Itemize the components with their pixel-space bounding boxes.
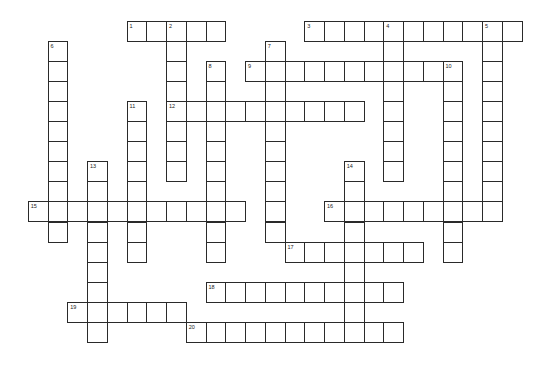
crossword-cell[interactable] xyxy=(324,101,345,122)
crossword-cell[interactable] xyxy=(265,161,286,182)
crossword-cell[interactable]: 11 xyxy=(127,101,148,122)
crossword-cell[interactable] xyxy=(344,322,365,343)
crossword-cell[interactable] xyxy=(443,242,464,263)
crossword-cell[interactable] xyxy=(146,21,167,42)
crossword-cell[interactable]: 2 xyxy=(166,21,187,42)
crossword-cell[interactable] xyxy=(67,201,88,222)
crossword-cell[interactable] xyxy=(482,61,503,82)
crossword-cell[interactable] xyxy=(127,121,148,142)
crossword-cell[interactable] xyxy=(48,101,69,122)
crossword-cell[interactable] xyxy=(186,101,207,122)
crossword-cell[interactable] xyxy=(423,61,444,82)
crossword-cell[interactable] xyxy=(48,61,69,82)
crossword-cell[interactable] xyxy=(383,121,404,142)
crossword-cell[interactable] xyxy=(87,181,108,202)
crossword-cell[interactable] xyxy=(482,161,503,182)
crossword-cell[interactable] xyxy=(206,121,227,142)
crossword-cell[interactable] xyxy=(364,322,385,343)
crossword-cell[interactable] xyxy=(127,222,148,243)
crossword-cell[interactable] xyxy=(166,41,187,62)
crossword-cell[interactable] xyxy=(186,201,207,222)
crossword-cell[interactable] xyxy=(482,81,503,102)
crossword-cell[interactable] xyxy=(482,141,503,162)
crossword-cell[interactable] xyxy=(48,121,69,142)
crossword-cell[interactable] xyxy=(344,101,365,122)
crossword-cell[interactable] xyxy=(364,61,385,82)
crossword-cell[interactable] xyxy=(285,322,306,343)
crossword-cell[interactable] xyxy=(403,201,424,222)
crossword-cell[interactable] xyxy=(265,101,286,122)
crossword-cell[interactable] xyxy=(344,201,365,222)
crossword-cell[interactable] xyxy=(146,201,167,222)
crossword-cell[interactable] xyxy=(87,201,108,222)
crossword-cell[interactable] xyxy=(265,181,286,202)
crossword-cell[interactable] xyxy=(87,282,108,303)
crossword-cell[interactable]: 12 xyxy=(166,101,187,122)
crossword-cell[interactable] xyxy=(166,201,187,222)
crossword-cell[interactable] xyxy=(344,242,365,263)
crossword-cell[interactable] xyxy=(206,181,227,202)
crossword-cell[interactable] xyxy=(186,21,207,42)
crossword-cell[interactable] xyxy=(383,141,404,162)
crossword-cell[interactable] xyxy=(304,61,325,82)
crossword-cell[interactable] xyxy=(245,282,266,303)
crossword-cell[interactable]: 7 xyxy=(265,41,286,62)
crossword-cell[interactable] xyxy=(48,201,69,222)
crossword-cell[interactable] xyxy=(265,282,286,303)
crossword-cell[interactable]: 20 xyxy=(186,322,207,343)
crossword-cell[interactable] xyxy=(423,21,444,42)
crossword-cell[interactable] xyxy=(383,322,404,343)
crossword-cell[interactable] xyxy=(324,322,345,343)
crossword-cell[interactable] xyxy=(225,101,246,122)
crossword-cell[interactable] xyxy=(304,282,325,303)
crossword-cell[interactable] xyxy=(443,141,464,162)
crossword-cell[interactable] xyxy=(502,21,523,42)
crossword-cell[interactable] xyxy=(443,121,464,142)
crossword-cell[interactable] xyxy=(383,61,404,82)
crossword-cell[interactable] xyxy=(48,181,69,202)
crossword-cell[interactable] xyxy=(482,41,503,62)
crossword-cell[interactable] xyxy=(482,201,503,222)
crossword-cell[interactable] xyxy=(48,141,69,162)
crossword-cell[interactable] xyxy=(265,121,286,142)
crossword-cell[interactable]: 15 xyxy=(28,201,49,222)
crossword-cell[interactable] xyxy=(443,161,464,182)
crossword-cell[interactable]: 4 xyxy=(383,21,404,42)
crossword-cell[interactable] xyxy=(364,282,385,303)
crossword-cell[interactable] xyxy=(107,302,128,323)
crossword-cell[interactable] xyxy=(383,101,404,122)
crossword-cell[interactable]: 5 xyxy=(482,21,503,42)
crossword-cell[interactable] xyxy=(127,201,148,222)
crossword-cell[interactable] xyxy=(166,81,187,102)
crossword-cell[interactable] xyxy=(87,262,108,283)
crossword-cell[interactable]: 16 xyxy=(324,201,345,222)
crossword-cell[interactable] xyxy=(127,302,148,323)
crossword-cell[interactable] xyxy=(324,21,345,42)
crossword-cell[interactable]: 14 xyxy=(344,161,365,182)
crossword-cell[interactable] xyxy=(166,61,187,82)
crossword-cell[interactable] xyxy=(443,201,464,222)
crossword-cell[interactable] xyxy=(206,322,227,343)
crossword-cell[interactable]: 8 xyxy=(206,61,227,82)
crossword-cell[interactable] xyxy=(225,201,246,222)
crossword-cell[interactable] xyxy=(166,121,187,142)
crossword-cell[interactable] xyxy=(206,81,227,102)
crossword-cell[interactable] xyxy=(265,201,286,222)
crossword-cell[interactable] xyxy=(344,21,365,42)
crossword-cell[interactable] xyxy=(403,21,424,42)
crossword-cell[interactable] xyxy=(344,302,365,323)
crossword-cell[interactable] xyxy=(265,222,286,243)
crossword-cell[interactable] xyxy=(383,282,404,303)
crossword-cell[interactable] xyxy=(107,201,128,222)
crossword-cell[interactable]: 13 xyxy=(87,161,108,182)
crossword-cell[interactable] xyxy=(166,161,187,182)
crossword-cell[interactable] xyxy=(383,242,404,263)
crossword-cell[interactable] xyxy=(383,201,404,222)
crossword-cell[interactable] xyxy=(364,242,385,263)
crossword-cell[interactable]: 19 xyxy=(67,302,88,323)
crossword-cell[interactable] xyxy=(344,61,365,82)
crossword-cell[interactable]: 1 xyxy=(127,21,148,42)
crossword-cell[interactable]: 17 xyxy=(285,242,306,263)
crossword-cell[interactable] xyxy=(206,141,227,162)
crossword-cell[interactable] xyxy=(304,101,325,122)
